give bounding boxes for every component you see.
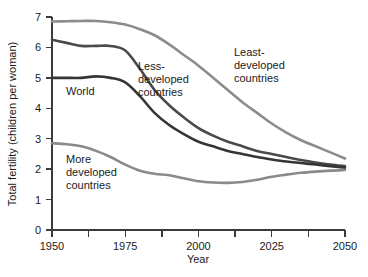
- series-line-0: [52, 21, 345, 159]
- series-annotations-group: Least-developedcountriesLess-developedco…: [66, 46, 285, 191]
- series-line-2: [52, 76, 345, 167]
- y-axis-tick-labels: 01234567: [35, 11, 41, 236]
- y-tick-label: 5: [35, 72, 41, 84]
- less-developed-label-line: countries: [138, 86, 183, 98]
- y-tick-label: 1: [35, 194, 41, 206]
- series-lines-group: [52, 21, 345, 183]
- x-axis-title: Year: [187, 253, 210, 265]
- x-tick-label: 2050: [333, 240, 357, 252]
- x-axis-tick-labels: 19501975200020252050: [40, 240, 357, 252]
- x-axis-ticks: [52, 230, 345, 237]
- y-tick-label: 6: [35, 41, 41, 53]
- least-developed-label-line: Least-: [234, 46, 265, 58]
- chart-canvas: 01234567 Total fertility (children per w…: [0, 0, 368, 277]
- x-tick-label: 1950: [40, 240, 64, 252]
- y-tick-label: 2: [35, 163, 41, 175]
- more-developed-label-line: More: [66, 153, 91, 165]
- y-tick-label: 7: [35, 11, 41, 23]
- least-developed-label-line: countries: [234, 72, 279, 84]
- world-label-line: World: [66, 85, 95, 97]
- y-tick-label: 0: [35, 224, 41, 236]
- more-developed-label-line: developed: [66, 166, 117, 178]
- y-tick-label: 4: [35, 102, 41, 114]
- series-line-1: [52, 40, 345, 166]
- y-tick-label: 3: [35, 133, 41, 145]
- world-label: World: [66, 85, 95, 97]
- more-developed-label: Moredevelopedcountries: [66, 153, 117, 191]
- least-developed-label-line: developed: [234, 59, 285, 71]
- less-developed-label-line: developed: [138, 73, 189, 85]
- least-developed-label: Least-developedcountries: [234, 46, 285, 84]
- x-axis-group: 19501975200020252050 Year: [40, 230, 357, 265]
- less-developed-label: Less-developedcountries: [138, 60, 189, 98]
- fertility-chart-figure: 01234567 Total fertility (children per w…: [0, 0, 368, 277]
- y-axis-group: 01234567 Total fertility (children per w…: [6, 11, 52, 236]
- x-tick-label: 1975: [113, 240, 137, 252]
- x-tick-label: 2025: [260, 240, 284, 252]
- y-axis-ticks: [46, 17, 52, 230]
- y-axis-title: Total fertility (children per woman): [6, 42, 18, 206]
- x-tick-label: 2000: [186, 240, 210, 252]
- less-developed-label-line: Less-: [138, 60, 165, 72]
- more-developed-label-line: countries: [66, 179, 111, 191]
